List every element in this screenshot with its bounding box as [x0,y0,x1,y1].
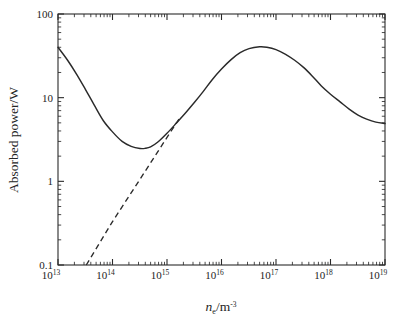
x-title-superscript: -3 [230,300,236,309]
y-tick-label: 0.1 [39,259,53,271]
absorbed-power-log-log-plot: 1013101410151016101710181019 1001010.1 n… [0,0,408,328]
y-tick-label: 100 [37,8,54,20]
y-title-text: Absorbed power/W [6,87,21,193]
y-tick-label: 10 [42,92,54,104]
figure-background [0,0,408,328]
x-title-separator: /m [216,299,231,314]
chart-figure: 1013101410151016101710181019 1001010.1 n… [0,0,408,328]
y-axis-title: Absorbed power/W [6,87,21,193]
y-tick-label: 1 [48,175,54,187]
